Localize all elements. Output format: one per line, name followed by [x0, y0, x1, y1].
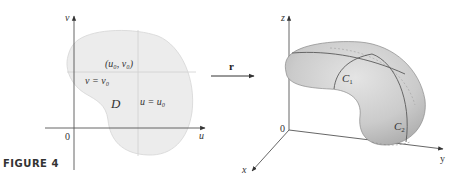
point-u0-v0-label: (u₀, v₀)	[105, 58, 134, 70]
u-equals-u0-label: u = u₀	[140, 96, 166, 107]
figure-caption: FIGURE 4	[3, 158, 59, 169]
curve-c1-subscript: 1	[349, 78, 353, 86]
u-axis-label: u	[199, 130, 204, 141]
parameter-domain-panel: v u 0 D (u₀, v₀) v = v₀ u = u₀	[45, 12, 205, 170]
y-axis-label: y	[440, 153, 445, 164]
x-axis	[252, 130, 289, 171]
origin-label-left: 0	[65, 131, 70, 142]
z-axis-label: z	[280, 12, 285, 23]
mapping-arrow: r	[211, 60, 254, 76]
region-d	[67, 30, 193, 155]
figure-canvas: v u 0 D (u₀, v₀) v = v₀ u = u₀ r z y x 0…	[0, 0, 458, 180]
origin-label-right: 0	[280, 123, 285, 134]
surface-panel: z y x 0 C1 C2	[241, 12, 445, 175]
region-d-label: D	[110, 96, 121, 111]
v-axis-label: v	[65, 12, 70, 23]
mapping-arrow-label: r	[229, 60, 234, 72]
x-axis-label: x	[241, 164, 247, 175]
curve-c2-subscript: 2	[401, 126, 405, 134]
v-equals-v0-label: v = v₀	[85, 75, 110, 86]
